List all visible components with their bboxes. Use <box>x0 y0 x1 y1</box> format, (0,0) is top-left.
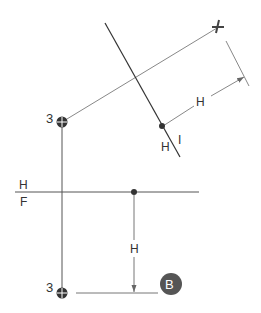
cross-marker <box>212 20 224 33</box>
point-on-hf-line <box>131 189 137 195</box>
fold-line-h-i <box>105 23 180 157</box>
label-dim-front: H <box>130 243 139 255</box>
label-line-h: H <box>161 141 170 153</box>
label-line-i: I <box>178 134 181 146</box>
label-point-3-bottom: 3 <box>46 281 53 294</box>
extension-line <box>226 41 249 86</box>
projection-line-auxiliary <box>62 28 217 122</box>
point-on-fold-line <box>159 123 165 129</box>
dimension-line-aux-2 <box>211 77 244 96</box>
label-fold-lower: F <box>20 196 27 208</box>
label-dim-aux: H <box>196 96 205 108</box>
dimension-line-aux-1 <box>163 106 194 126</box>
badge-b-label: B <box>165 278 174 291</box>
diagram-canvas <box>0 0 261 313</box>
label-point-3-top: 3 <box>46 112 53 125</box>
label-fold-upper: H <box>19 179 28 191</box>
